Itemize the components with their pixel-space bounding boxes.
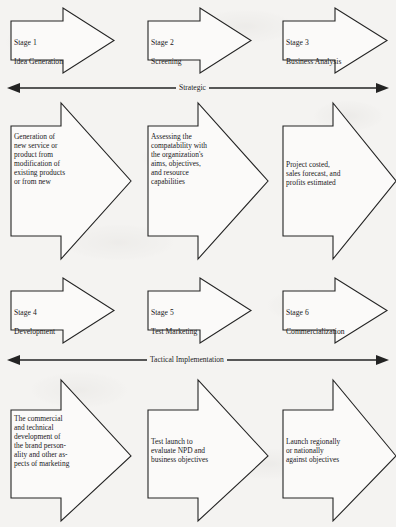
stage-name-4: Development — [14, 327, 55, 336]
stage-name-1: Idea Generation — [14, 57, 63, 66]
detail-text-3: Project costed, sales forecast, and prof… — [286, 160, 376, 187]
stage-name-3: Business Analysis — [286, 57, 341, 66]
stage-number-1: Stage 1 — [14, 38, 37, 47]
stage-name-2: Screening — [151, 57, 182, 66]
stage-number-4: Stage 4 — [14, 308, 37, 317]
detail-text-5: Test launch to evaluate NPD and business… — [151, 437, 239, 464]
detail-text-4: The commercial and technical development… — [14, 414, 98, 469]
detail-text-6: Launch regionally or nationally against … — [286, 437, 376, 464]
stage-label-5: Stage 5 Test Marketing — [151, 298, 197, 336]
tactical-axis-label: Tactical Implementation — [147, 355, 227, 364]
diagram-text-layer: Stage 1 Idea Generation Stage 2 Screenin… — [0, 0, 396, 527]
stage-name-5: Test Marketing — [151, 327, 197, 336]
stage-label-1: Stage 1 Idea Generation — [14, 28, 63, 66]
stage-label-6: Stage 6 Commercialization — [286, 298, 345, 336]
diagram-canvas: Stage 1 Idea Generation Stage 2 Screenin… — [0, 0, 396, 527]
stage-number-6: Stage 6 — [286, 308, 309, 317]
detail-text-1: Generation of new service or product fro… — [14, 132, 96, 187]
stage-name-6: Commercialization — [286, 327, 345, 336]
stage-number-5: Stage 5 — [151, 308, 174, 317]
detail-text-2: Assessing the compatability with the org… — [151, 132, 235, 187]
stage-label-2: Stage 2 Screening — [151, 28, 182, 66]
strategic-axis-label: Strategic — [176, 83, 209, 92]
stage-number-3: Stage 3 — [286, 38, 309, 47]
stage-number-2: Stage 2 — [151, 38, 174, 47]
stage-label-3: Stage 3 Business Analysis — [286, 28, 341, 66]
stage-label-4: Stage 4 Development — [14, 298, 55, 336]
